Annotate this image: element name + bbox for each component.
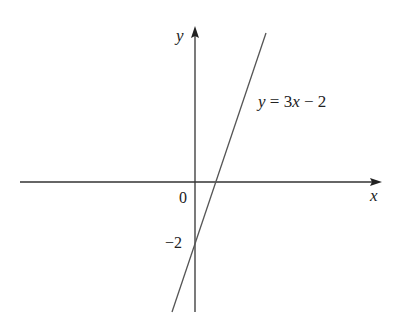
origin-label: 0 [179, 189, 187, 206]
equation-label: y = 3x − 2 [256, 92, 326, 111]
y-axis [191, 26, 199, 312]
graph-canvas: y x 0 −2 y = 3x − 2 [0, 0, 402, 325]
y-intercept-label: −2 [165, 234, 182, 251]
equation-rest: = 3 [266, 92, 293, 111]
equation-tail: − 2 [300, 92, 327, 111]
function-line [172, 33, 266, 312]
equation-y: y [256, 92, 266, 111]
y-axis-label: y [174, 26, 184, 45]
x-axis [20, 178, 382, 186]
x-axis-label: x [369, 186, 378, 205]
